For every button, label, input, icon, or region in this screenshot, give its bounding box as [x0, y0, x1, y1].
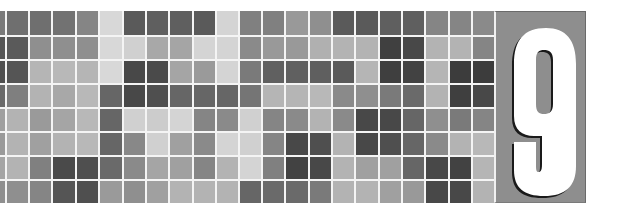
mosaic-tile	[30, 181, 51, 203]
mosaic-tile	[426, 61, 448, 83]
mosaic-tile	[77, 85, 98, 107]
mosaic-tile	[333, 11, 354, 35]
mosaic-tile	[77, 181, 98, 203]
chapter-number-numeral	[496, 12, 588, 204]
mosaic-tile	[217, 133, 238, 155]
mosaic-tile	[286, 109, 308, 131]
mosaic-tile	[240, 37, 261, 59]
mosaic-tile	[333, 133, 354, 155]
mosaic-tile	[286, 85, 308, 107]
mosaic-tile	[100, 181, 122, 203]
mosaic-tile	[0, 37, 5, 59]
mosaic-tile	[403, 157, 424, 179]
mosaic-tile	[0, 157, 5, 179]
mosaic-tile	[286, 37, 308, 59]
mosaic-tile	[286, 157, 308, 179]
mosaic-tile	[7, 11, 28, 35]
mosaic-tile	[217, 37, 238, 59]
mosaic-tile	[240, 85, 261, 107]
mosaic-tile	[170, 85, 192, 107]
mosaic-tile	[147, 109, 168, 131]
mosaic-tile	[194, 61, 215, 83]
mosaic-tile	[7, 133, 28, 155]
mosaic-tile	[53, 157, 75, 179]
mosaic-tile	[0, 85, 5, 107]
mosaic-tile	[170, 181, 192, 203]
mosaic-tile	[7, 37, 28, 59]
mosaic-tile	[286, 61, 308, 83]
mosaic-tile	[380, 181, 401, 203]
mosaic-tile	[403, 37, 424, 59]
mosaic-tile	[426, 37, 448, 59]
mosaic-tile	[124, 61, 145, 83]
chapter-number-panel: 9	[494, 11, 586, 203]
mosaic-tile	[333, 181, 354, 203]
mosaic-tile	[0, 11, 5, 35]
mosaic-tile	[217, 109, 238, 131]
mosaic-tile	[7, 181, 28, 203]
mosaic-tile	[147, 37, 168, 59]
mosaic-tile	[450, 133, 471, 155]
mosaic-tile	[240, 109, 261, 131]
mosaic-tile	[100, 61, 122, 83]
mosaic-tile	[0, 109, 5, 131]
mosaic-tile	[286, 181, 308, 203]
mosaic-tile	[310, 11, 331, 35]
mosaic-tile	[356, 109, 378, 131]
mosaic-tile	[380, 109, 401, 131]
mosaic-tile	[263, 157, 284, 179]
mosaic-tile	[53, 11, 75, 35]
mosaic-tile	[170, 37, 192, 59]
mosaic-tile	[450, 37, 471, 59]
mosaic-tile	[124, 37, 145, 59]
mosaic-tile	[450, 11, 471, 35]
mosaic-tile	[240, 61, 261, 83]
mosaic-tile	[263, 133, 284, 155]
mosaic-tile	[473, 181, 494, 203]
mosaic-tile	[450, 85, 471, 107]
mosaic-tile	[310, 37, 331, 59]
mosaic-tile	[124, 181, 145, 203]
mosaic-tile	[217, 85, 238, 107]
mosaic-tile	[426, 157, 448, 179]
mosaic-tile	[356, 61, 378, 83]
mosaic-tile	[77, 61, 98, 83]
mosaic-tile	[100, 37, 122, 59]
mosaic-tile	[147, 85, 168, 107]
mosaic-tile	[194, 109, 215, 131]
mosaic-tile	[7, 157, 28, 179]
mosaic-tile	[30, 61, 51, 83]
mosaic-tile	[124, 133, 145, 155]
mosaic-tile	[356, 37, 378, 59]
mosaic-tile	[403, 181, 424, 203]
mosaic-tile	[310, 133, 331, 155]
mosaic-tile	[0, 181, 5, 203]
mosaic-tile	[263, 109, 284, 131]
mosaic-tile	[100, 11, 122, 35]
mosaic-tile	[77, 109, 98, 131]
mosaic-tile	[147, 11, 168, 35]
mosaic-tile	[426, 85, 448, 107]
mosaic-tile	[124, 11, 145, 35]
mosaic-tile	[310, 85, 331, 107]
mosaic-tile	[77, 37, 98, 59]
mosaic-tile	[380, 133, 401, 155]
mosaic-tile	[30, 133, 51, 155]
mosaic-tile	[53, 85, 75, 107]
mosaic-tile	[30, 37, 51, 59]
mosaic-tile	[124, 157, 145, 179]
mosaic-tile	[310, 61, 331, 83]
mosaic-tile	[403, 85, 424, 107]
mosaic-tile	[240, 133, 261, 155]
mosaic-tile	[356, 181, 378, 203]
mosaic-tile	[450, 181, 471, 203]
mosaic-tile	[53, 37, 75, 59]
mosaic-tile	[263, 11, 284, 35]
mosaic-tile	[333, 157, 354, 179]
mosaic-tile	[194, 85, 215, 107]
mosaic-tile	[356, 133, 378, 155]
mosaic-tile	[7, 109, 28, 131]
mosaic-tile	[310, 109, 331, 131]
mosaic-tile	[100, 133, 122, 155]
mosaic-tile	[263, 85, 284, 107]
